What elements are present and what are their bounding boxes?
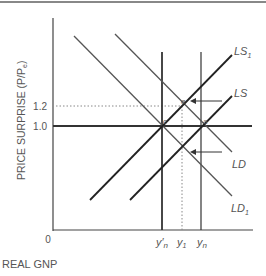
- x-tick-y1: y1: [176, 236, 187, 249]
- ld1-label: LD1: [231, 202, 249, 216]
- y-tick-1-2: 1.2: [33, 101, 47, 112]
- ld-curve: [115, 34, 232, 152]
- point-a-label: a: [203, 117, 208, 126]
- x-tick-y-prime-n: y′n: [155, 236, 169, 250]
- economics-diagram: LS1 LS LD LD1 e c a 1.2 1.0 0 y′n y1 yn …: [0, 0, 266, 276]
- point-e-label: e: [181, 97, 186, 106]
- demand-shift-arrow: [190, 149, 222, 155]
- x-axis-title: REAL GNP: [2, 258, 57, 270]
- point-c-label: c: [163, 117, 167, 126]
- supply-shift-arrow: [190, 98, 222, 104]
- x-tick-yn: yn: [196, 236, 208, 250]
- ls1-label: LS1: [234, 45, 251, 59]
- y-axis-title: PRICE SURPRISE (P/Pe): [15, 61, 28, 180]
- ls1-curve: [90, 55, 232, 200]
- ls-curve: [130, 96, 232, 200]
- ld-label: LD: [232, 158, 246, 170]
- y-tick-1-0: 1.0: [33, 121, 47, 132]
- ld1-curve: [74, 36, 232, 196]
- origin-label: 0: [45, 234, 51, 245]
- ls-label: LS: [234, 87, 248, 99]
